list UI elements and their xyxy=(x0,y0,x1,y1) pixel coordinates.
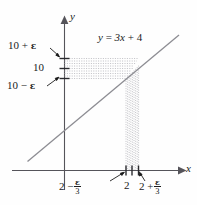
x-left-denominator: 3 xyxy=(74,187,81,196)
y-tick-label-lower: 10 − ε xyxy=(7,80,35,91)
x-left-base: 2 xyxy=(59,180,65,192)
x-left-op: − xyxy=(67,180,73,192)
y-upper-epsilon: ε xyxy=(31,41,36,51)
eq-slope-term: 3x xyxy=(115,31,125,43)
y-upper-base: 10 xyxy=(8,39,19,51)
x-tick-label-right: 2 +ε3 xyxy=(139,178,161,196)
eq-y: y xyxy=(98,31,103,43)
y-axis-arrow xyxy=(61,16,69,25)
y-axis-label: y xyxy=(70,11,75,22)
function-line xyxy=(28,35,180,162)
y-tick-label-upper: 10 + ε xyxy=(8,40,36,51)
y-tick-label-center: 10 xyxy=(33,62,44,73)
x-left-fraction: ε3 xyxy=(74,178,81,196)
x-right-fraction: ε3 xyxy=(154,178,161,196)
x-band-dotted-lines xyxy=(126,66,139,170)
y-lower-base: 10 xyxy=(7,79,18,91)
x-right-base: 2 xyxy=(139,180,145,192)
x-axis-label: x xyxy=(186,163,191,174)
y-lower-epsilon: ε xyxy=(30,81,35,91)
x-axis xyxy=(12,167,187,175)
y-center-base: 10 xyxy=(33,61,44,73)
x-right-denominator: 3 xyxy=(154,187,161,196)
x-right-op: + xyxy=(147,180,153,192)
x-tick-label-left: 2 −ε3 xyxy=(59,178,81,196)
eq-equals: = xyxy=(106,31,112,43)
eq-intercept: 4 xyxy=(137,31,143,43)
limit-figure: y = 3x + 4 y x 10 + ε 10 10 − ε 2 −ε3 2 … xyxy=(0,0,197,205)
eq-plus: + xyxy=(128,31,134,43)
x-center-base: 2 xyxy=(124,179,130,191)
y-lower-op: − xyxy=(21,79,27,91)
y-axis xyxy=(61,16,69,191)
y-upper-op: + xyxy=(22,39,28,51)
y-band-dotted-lines xyxy=(65,59,139,79)
x-tick-label-center: 2 xyxy=(124,180,130,191)
curve-equation-label: y = 3x + 4 xyxy=(98,32,142,43)
